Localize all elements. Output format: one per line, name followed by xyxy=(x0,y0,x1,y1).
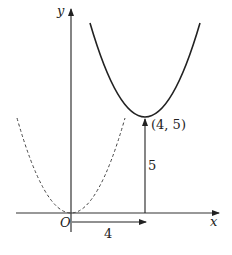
horizontal-shift-label: 4 xyxy=(104,226,112,241)
vertical-shift-label: 5 xyxy=(148,158,156,173)
origin-label: O xyxy=(60,215,71,230)
translation-diagram: y x O (4, 5) 5 4 xyxy=(0,0,232,255)
y-axis-label: y xyxy=(56,3,65,18)
solid-parabola xyxy=(90,23,200,117)
x-axis-label: x xyxy=(210,214,218,229)
vertex-label: (4, 5) xyxy=(151,117,186,132)
